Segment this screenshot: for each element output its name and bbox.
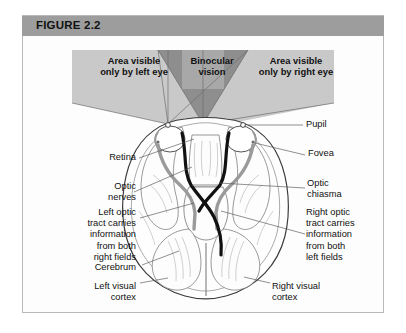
retina-label: Retina	[58, 152, 136, 163]
fovea-label: Fovea	[308, 148, 368, 159]
optic-chiasma-label: Optic chiasma	[307, 178, 377, 200]
figure-header-bar: FIGURE 2.2	[22, 16, 384, 36]
pupil-label: Pupil	[306, 119, 366, 130]
figure-number-label: FIGURE 2.2	[36, 19, 101, 31]
left-visual-cortex-label: Left visual cortex	[48, 281, 136, 303]
left-fovea	[157, 141, 160, 144]
optic-nerves-label: Optic nerves	[56, 181, 136, 203]
right-fovea	[252, 141, 255, 144]
right-pupil	[241, 123, 246, 128]
right-optic-tract-label: Right optic tract carries information fr…	[306, 207, 398, 263]
right-visual-cortex-label: Right visual cortex	[272, 281, 366, 303]
left-eye-field-label: Area visible only by left eye	[84, 55, 184, 77]
right-eye-field-label: Area visible only by right eye	[244, 55, 348, 77]
left-pupil	[166, 123, 171, 128]
left-optic-tract-label: Left optic tract carries information fro…	[44, 207, 136, 263]
cerebrum-label: Cerebrum	[56, 262, 136, 273]
binocular-vision-label: Binocular vision	[183, 55, 241, 77]
figure-container: FIGURE 2.2 Area visible only by left eye…	[0, 0, 406, 333]
